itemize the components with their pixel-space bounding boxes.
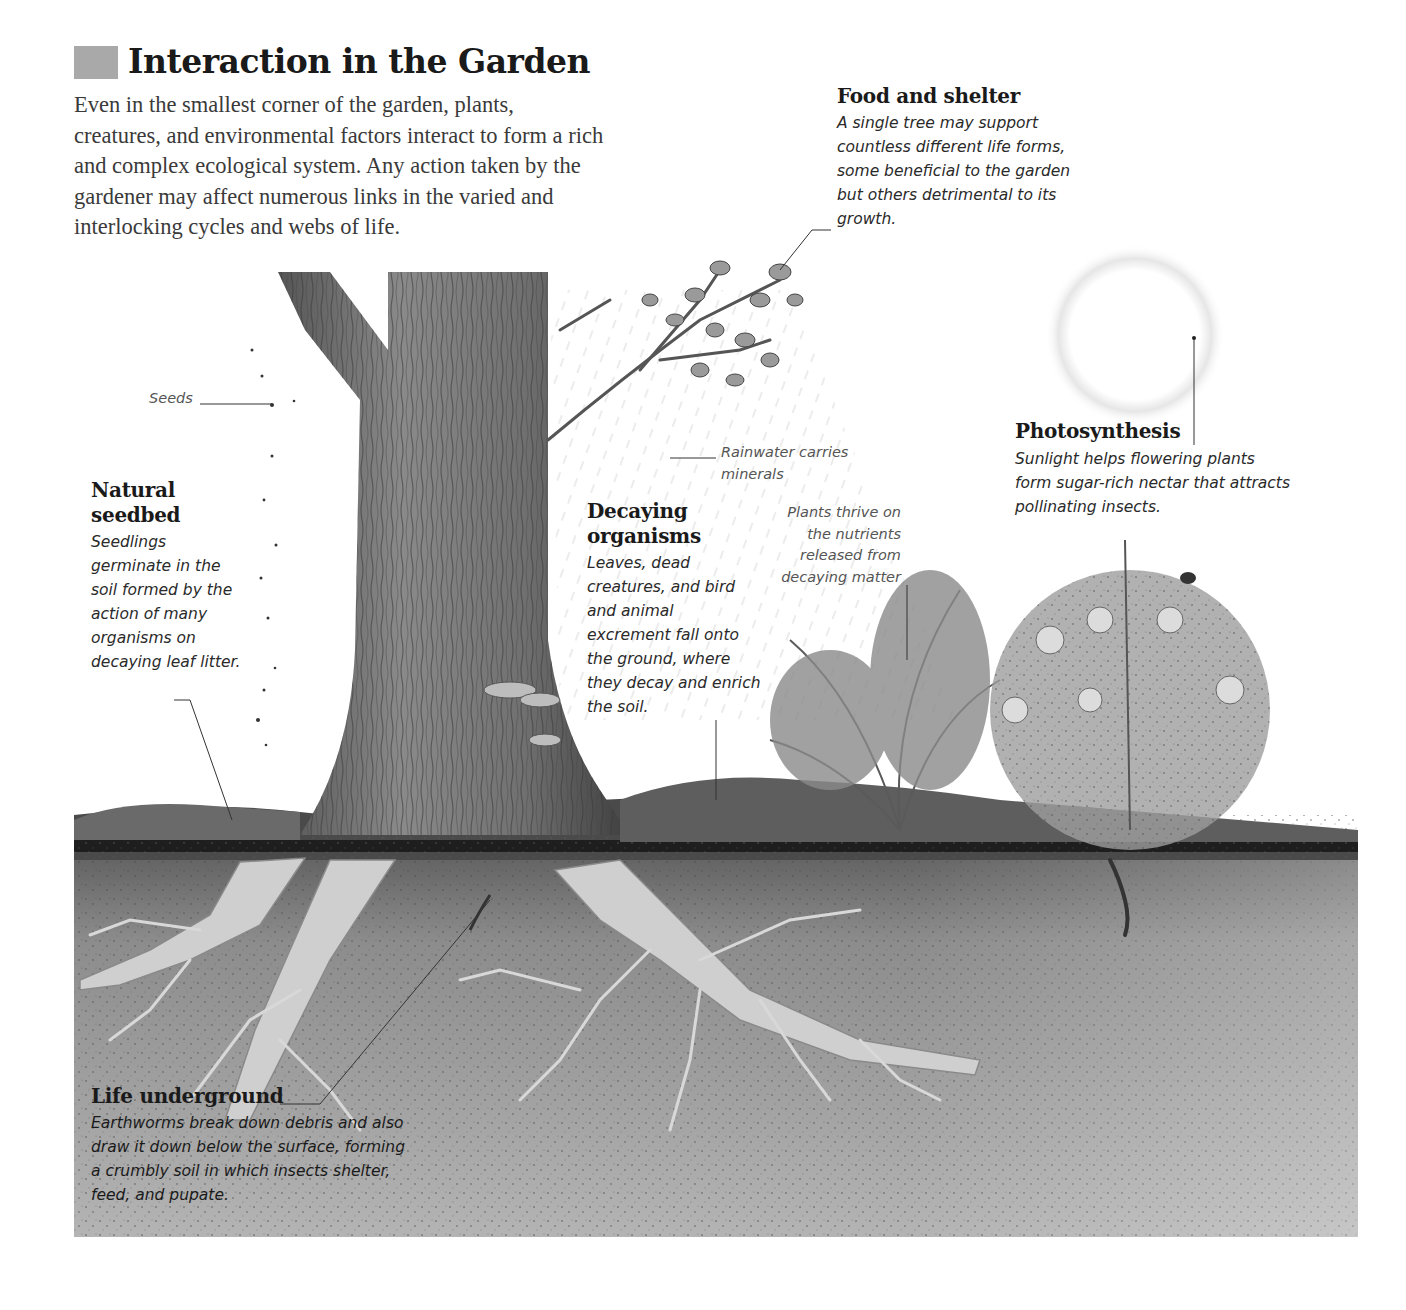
callout-text: Seedlings germinate in the soil formed b… [91,530,241,674]
seed-dots [251,349,296,747]
callout-text: Sunlight helps flowering plants form sug… [1015,447,1295,519]
callout-natural-seedbed: Natural seedbed Seedlings germinate in t… [91,478,241,674]
rose-bush [990,540,1270,850]
callout-text: Leaves, dead creatures, and bird and ani… [587,551,762,719]
label-seeds: Seeds [149,388,193,410]
callout-decaying-organisms: Decaying organisms Leaves, dead creature… [587,499,762,719]
callout-text: A single tree may support countless diff… [837,111,1077,231]
callout-life-underground: Life underground Earthworms break down d… [91,1084,411,1207]
sun [1045,245,1225,425]
label-plants-thrive: Plants thrive on the nutrients released … [770,502,901,588]
callout-heading-line2: seedbed [91,503,241,528]
callout-heading-line2: organisms [587,524,762,549]
callout-photosynthesis: Photosynthesis Sunlight helps flowering … [1015,419,1295,519]
callout-heading: Food and shelter [837,84,1077,109]
intro-paragraph: Even in the smallest corner of the garde… [74,90,604,243]
label-rainwater: Rainwater carries minerals [721,442,871,485]
callout-heading-line1: Decaying [587,499,762,524]
page-title: Interaction in the Garden [128,42,590,81]
callout-heading: Photosynthesis [1015,419,1295,444]
callout-text: Earthworms break down debris and also dr… [91,1111,411,1207]
callout-heading: Life underground [91,1084,411,1109]
callout-heading-line1: Natural [91,478,241,503]
bee [1180,572,1196,584]
callout-food-shelter: Food and shelter A single tree may suppo… [837,84,1077,231]
title-color-block [74,46,118,79]
